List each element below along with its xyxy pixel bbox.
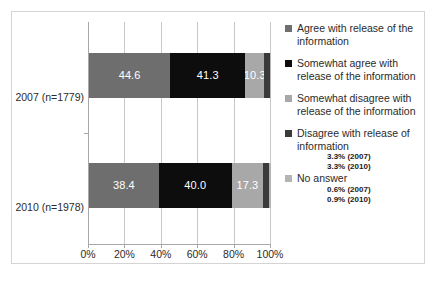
bar-value-label: 38.4 (113, 180, 135, 191)
bar-value-label: 17.3 (237, 180, 259, 191)
legend-item-label: Somewhat agree with release of the infor… (297, 57, 417, 82)
bar-segment[interactable]: 44.6 (89, 53, 170, 98)
bar-segment[interactable]: 41.3 (170, 53, 245, 98)
legend-swatch-icon (285, 25, 292, 32)
bar-value-label: 41.3 (197, 70, 219, 81)
legend-item[interactable]: Disagree with release of information (285, 127, 417, 152)
x-axis-tick-label: 80% (223, 248, 244, 260)
legend-spacer (285, 117, 417, 127)
x-axis-tick-label: 20% (114, 248, 135, 260)
bar-segment[interactable]: 38.4 (89, 163, 159, 208)
legend-item-label: Agree with release of the information (297, 22, 417, 47)
bar-value-label: 40.0 (184, 180, 206, 191)
legend-item[interactable]: Somewhat agree with release of the infor… (285, 57, 417, 82)
legend-item-label: Disagree with release of information (297, 127, 417, 152)
legend-spacer (285, 82, 417, 92)
legend-swatch-icon (285, 130, 292, 137)
bar-segment[interactable]: 10.3 (245, 53, 264, 98)
legend-item-label: Somewhat disagree with release of the in… (297, 92, 417, 117)
bar-segment[interactable] (270, 53, 271, 98)
bar-segment[interactable]: 17.3 (232, 163, 263, 208)
legend-spacer (285, 47, 417, 57)
legend-annotation: 0.9% (2010) (327, 195, 417, 205)
bar-value-label: 44.6 (119, 70, 141, 81)
chart-root: 2007 (n=1779) 2010 (n=1978) 44.641.310.3… (0, 0, 440, 282)
legend-annotation: 3.3% (2007) (327, 152, 417, 162)
x-axis-labels: 0%20%40%60%80%100% (88, 248, 270, 264)
legend-swatch-icon (285, 95, 292, 102)
y-axis-midtick (84, 133, 88, 134)
x-axis-line (88, 244, 271, 245)
legend-swatch-icon (285, 175, 292, 182)
plot-area: 44.641.310.3 38.440.017.3 (88, 22, 270, 244)
bar-value-label: 10.3 (245, 70, 264, 81)
y-axis-labels: 2007 (n=1779) 2010 (n=1978) (0, 22, 84, 244)
y-axis-label-2010: 2010 (n=1978) (0, 201, 84, 213)
x-axis-tick-label: 40% (150, 248, 171, 260)
legend-annotation: 0.6% (2007) (327, 185, 417, 195)
legend-item-label: No answer (297, 172, 347, 185)
legend-swatch-icon (285, 60, 292, 67)
legend-item[interactable]: Somewhat disagree with release of the in… (285, 92, 417, 117)
y-axis-label-2007: 2007 (n=1779) (0, 91, 84, 103)
bar-segment[interactable] (269, 163, 271, 208)
legend-item[interactable]: No answer (285, 172, 417, 185)
x-axis-tick-label: 60% (187, 248, 208, 260)
x-axis-tick-label: 100% (257, 248, 284, 260)
legend-item[interactable]: Agree with release of the information (285, 22, 417, 47)
bar-segment[interactable]: 40.0 (159, 163, 232, 208)
chart-legend: Agree with release of the informationSom… (285, 22, 417, 205)
legend-annotation: 3.3% (2010) (327, 162, 417, 172)
x-axis-tick-label: 0% (80, 248, 95, 260)
